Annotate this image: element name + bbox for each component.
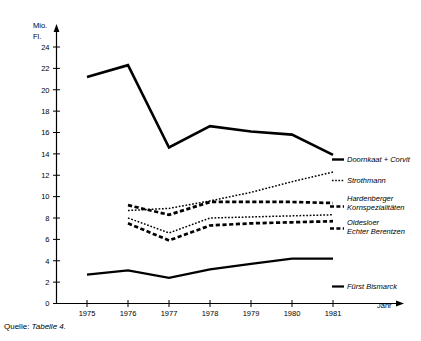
y-tick-label: 6 [45, 235, 49, 244]
line-chart-svg: 024681012141618202224 197519761977197819… [0, 0, 421, 341]
y-axis-ticks: 024681012141618202224 [41, 43, 60, 309]
series-line-f-rst-bismarck [87, 259, 333, 278]
y-axis-title-line2: Fl. [33, 32, 41, 41]
source-reference: Tabelle 4. [32, 322, 66, 331]
y-tick-label: 16 [41, 128, 49, 137]
y-tick-label: 12 [41, 171, 49, 180]
y-tick-label: 4 [45, 257, 49, 266]
series-label-hardenberger-line1: Hardenberger [347, 194, 394, 203]
series-line-doornkaat-corvit [87, 65, 333, 155]
x-axis [57, 301, 405, 307]
x-axis-title: Jahr [377, 301, 392, 310]
y-tick-label: 20 [41, 86, 49, 95]
y-tick-label: 14 [41, 150, 49, 159]
series-label-hardenberger-line2: Kornspezialitäten [347, 203, 405, 212]
y-tick-label: 24 [41, 43, 49, 52]
x-axis-arrow [396, 301, 404, 307]
x-tick-label: 1977 [161, 309, 178, 318]
chart-container: 024681012141618202224 197519761977197819… [0, 0, 421, 341]
x-tick-label: 1978 [202, 309, 219, 318]
series-label-doornkaat: Doornkaat + Corvit [347, 155, 411, 164]
series-line-echter-berentzen [128, 221, 333, 240]
source-note: Quelle: Tabelle 4. [4, 322, 66, 331]
y-tick-label: 10 [41, 192, 49, 201]
series-label-strothmann: Strothmann [347, 176, 386, 185]
x-tick-label: 1981 [325, 309, 342, 318]
series-label-fuerst-bismarck: Fürst Bismarck [347, 282, 398, 291]
y-tick-label: 18 [41, 107, 49, 116]
y-tick-label: 22 [41, 64, 49, 73]
series-label-oldesloer: Oldesloer [347, 218, 380, 227]
y-tick-label: 0 [45, 299, 49, 308]
series-paths-group [87, 65, 333, 278]
y-tick-label: 2 [45, 278, 49, 287]
y-axis-title-line1: Mio. [33, 21, 47, 30]
x-tick-label: 1980 [284, 309, 301, 318]
y-axis-arrow [54, 24, 60, 32]
series-line-strothmann [128, 172, 333, 210]
series-label-echter-berentzen: Echter Berentzen [347, 227, 405, 236]
x-axis-ticks: 1975197619771978197919801981 [79, 300, 342, 318]
x-tick-label: 1979 [243, 309, 260, 318]
x-tick-label: 1975 [79, 309, 96, 318]
source-prefix: Quelle: [4, 322, 29, 331]
x-tick-label: 1976 [120, 309, 137, 318]
legend-connectors [330, 160, 344, 287]
y-tick-label: 8 [45, 214, 49, 223]
